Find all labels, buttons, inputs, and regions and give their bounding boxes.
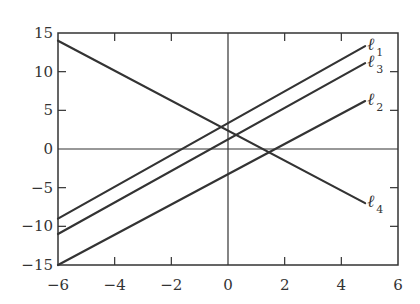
x-tick-label: 2	[280, 276, 290, 294]
line-chart: −6−4−20246−15−10−5051015 ℓ1ℓ3ℓ2ℓ4	[0, 0, 420, 304]
line-1	[58, 46, 365, 218]
line-label-3: ℓ	[367, 51, 374, 71]
x-tick-label: 0	[223, 276, 233, 294]
y-tick-label: −10	[21, 217, 53, 235]
line-label-4: ℓ	[367, 191, 374, 211]
line-label-subscript: 1	[376, 46, 383, 59]
line-4	[58, 41, 365, 203]
data-lines	[58, 41, 365, 265]
y-tick-label: 10	[34, 63, 53, 81]
line-labels: ℓ1ℓ3ℓ2ℓ4	[367, 34, 383, 216]
line-label-2: ℓ	[367, 89, 374, 109]
x-tick-label: 6	[393, 276, 403, 294]
line-label-subscript: 3	[376, 63, 383, 76]
line-2	[58, 101, 365, 265]
x-tick-label: −6	[47, 276, 69, 294]
line-label-subscript: 4	[376, 203, 383, 216]
y-tick-label: 15	[34, 24, 53, 42]
y-tick-label: −15	[21, 256, 53, 274]
x-tick-label: −2	[160, 276, 182, 294]
line-label-subscript: 2	[376, 101, 383, 114]
y-tick-label: −5	[31, 179, 53, 197]
y-tick-label: 5	[43, 101, 53, 119]
x-tick-label: −4	[104, 276, 126, 294]
y-tick-label: 0	[43, 140, 53, 158]
x-tick-label: 4	[337, 276, 347, 294]
